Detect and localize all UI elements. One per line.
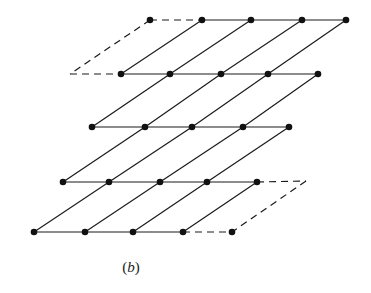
lattice-site-dot <box>157 179 164 186</box>
diagonal-bond <box>221 20 302 74</box>
lattice-site-dot <box>180 229 187 236</box>
lattice-site-dot <box>106 179 113 186</box>
caption-letter: b <box>127 259 135 275</box>
diagonal-bond <box>183 182 257 232</box>
boundary-dashed-bond <box>257 181 306 182</box>
caption-close-paren: ) <box>135 259 140 275</box>
lattice-site-dot <box>240 124 247 131</box>
lattice-site-dot <box>204 179 211 186</box>
diagonal-bond <box>192 74 268 127</box>
diagonal-bond <box>160 127 243 182</box>
lattice-site-dot <box>118 71 125 78</box>
lattice-site-dot <box>167 71 174 78</box>
lattice-site-dot <box>229 229 236 236</box>
lattice-site-dot <box>343 17 350 24</box>
lattice-site-dot <box>89 124 96 131</box>
diagonal-bond <box>268 20 346 74</box>
boundary-dashed-bond <box>70 20 150 74</box>
diagonal-bond <box>243 74 318 127</box>
lattice-site-dot <box>142 124 149 131</box>
figure-caption: (b) <box>0 259 262 276</box>
lattice-site-dot <box>248 17 255 24</box>
diagonal-bond <box>207 127 289 182</box>
lattice-site-dot <box>130 229 137 236</box>
lattice-site-dot <box>286 124 293 131</box>
diagonal-bond <box>34 182 109 232</box>
diagonal-bond <box>63 127 145 182</box>
lattice-site-dot <box>147 17 154 24</box>
diagonal-bond <box>145 74 221 127</box>
diagonal-bond <box>109 127 192 182</box>
lattice-site-dot <box>299 17 306 24</box>
lattice-site-dot <box>60 179 67 186</box>
diagonal-bond <box>92 74 170 127</box>
lattice-site-dot <box>82 229 89 236</box>
lattice-site-dot <box>199 17 206 24</box>
diagonal-bond <box>133 182 207 232</box>
boundary-dashed-bond <box>232 181 306 232</box>
lattice-site-dot <box>315 71 322 78</box>
lattice-site-dot <box>189 124 196 131</box>
lattice-site-dot <box>218 71 225 78</box>
diagonal-bond <box>85 182 160 232</box>
diagonal-bond <box>121 20 202 74</box>
diagonal-bond <box>170 20 251 74</box>
lattice-diagram <box>0 0 371 293</box>
lattice-site-dot <box>265 71 272 78</box>
lattice-site-dot <box>254 179 261 186</box>
lattice-site-dot <box>31 229 38 236</box>
